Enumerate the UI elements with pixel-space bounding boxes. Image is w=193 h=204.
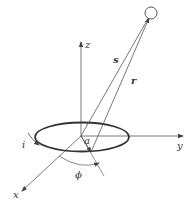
field-point-circle <box>145 7 157 19</box>
phi-angle-label: ϕ <box>75 170 82 180</box>
vector-r <box>91 18 149 152</box>
vector-r-label: r <box>131 76 136 86</box>
y-axis-label: y <box>177 141 183 151</box>
x-axis <box>22 136 81 191</box>
vector-s <box>81 17 149 136</box>
x-axis-label: x <box>13 190 19 200</box>
current-direction-arrow <box>28 133 39 145</box>
z-axis-label: z <box>85 40 90 50</box>
current-loop-diagram <box>0 0 193 204</box>
vector-s-label: s <box>113 55 119 65</box>
radius-a-label: a <box>84 136 90 146</box>
current-i-label: i <box>22 140 25 150</box>
